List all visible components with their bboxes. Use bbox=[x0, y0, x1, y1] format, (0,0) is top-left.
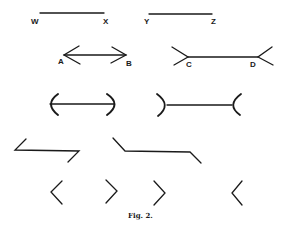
label-c: C bbox=[186, 60, 192, 69]
line-with-inward-arcs bbox=[157, 94, 241, 116]
figure-canvas: W X Y Z A B C D bbox=[0, 0, 286, 230]
chevron-right-2 bbox=[154, 181, 165, 205]
bent-line-right bbox=[113, 138, 201, 163]
label-a: A bbox=[58, 57, 64, 66]
figure-caption: Fig. 2. bbox=[128, 211, 153, 220]
label-y: Y bbox=[144, 17, 150, 26]
chevron-left-1 bbox=[51, 181, 62, 204]
label-b: B bbox=[126, 59, 132, 68]
label-d: D bbox=[250, 60, 256, 69]
label-x: X bbox=[103, 17, 109, 26]
chevron-right-1 bbox=[106, 180, 117, 203]
arrow-ab bbox=[64, 46, 126, 64]
label-w: W bbox=[31, 17, 39, 26]
label-z: Z bbox=[211, 17, 216, 26]
line-with-outward-arcs bbox=[50, 94, 115, 115]
chevron-left-2 bbox=[232, 181, 242, 205]
z-shape-left bbox=[15, 139, 79, 162]
